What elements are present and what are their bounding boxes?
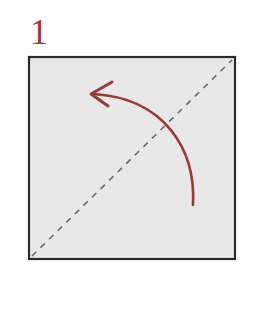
fold-diagram xyxy=(0,0,258,312)
